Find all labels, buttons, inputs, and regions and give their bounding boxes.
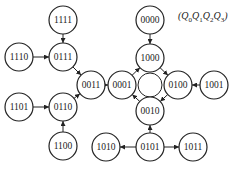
nodes: 1111111001110011110101101100000010000001… — [5, 6, 228, 161]
state-node-1000: 1000 — [136, 44, 164, 72]
edge-1000-0100 — [160, 68, 168, 76]
state-node-0111: 0111 — [49, 43, 77, 71]
svg-text:1101: 1101 — [10, 102, 29, 112]
state-node-0001: 0001 — [108, 71, 136, 99]
edge-0111-0011 — [73, 67, 81, 75]
state-node-1001: 1001 — [200, 71, 228, 99]
edge-0001-1000 — [132, 68, 140, 76]
state-node-1010: 1010 — [92, 133, 120, 161]
svg-text:1010: 1010 — [97, 142, 116, 152]
svg-text:0001: 0001 — [113, 80, 132, 90]
state-node-1011: 1011 — [179, 133, 207, 161]
state-node-0011: 0011 — [77, 71, 105, 99]
state-diagram: 1111111001110011110101101100000010000001… — [0, 0, 232, 170]
state-node-0000: 0000 — [136, 6, 164, 34]
svg-text:0101: 0101 — [141, 142, 160, 152]
svg-text:0110: 0110 — [54, 102, 73, 112]
state-node-0110: 0110 — [49, 93, 77, 121]
edge-0010-0001 — [132, 95, 139, 102]
svg-text:0011: 0011 — [82, 80, 101, 90]
svg-text:1111: 1111 — [54, 15, 72, 25]
svg-text:0111: 0111 — [54, 52, 73, 62]
state-node-1110: 1110 — [5, 43, 33, 71]
svg-text:1000: 1000 — [141, 53, 160, 63]
state-node-1111: 1111 — [49, 6, 77, 34]
svg-text:1001: 1001 — [205, 80, 224, 90]
state-node-0100: 0100 — [164, 71, 192, 99]
svg-text:0100: 0100 — [169, 80, 188, 90]
svg-text:0000: 0000 — [141, 15, 160, 25]
svg-text:1100: 1100 — [54, 141, 73, 151]
edge-0110-0011 — [74, 94, 80, 99]
state-node-1101: 1101 — [5, 93, 33, 121]
state-node-1100: 1100 — [49, 132, 77, 160]
state-node-0101: 0101 — [136, 133, 164, 161]
cycle-indicator — [138, 73, 162, 97]
svg-text:0010: 0010 — [141, 106, 160, 116]
svg-text:1011: 1011 — [184, 142, 203, 152]
edge-0100-0010 — [160, 95, 167, 102]
legend: (Q0Q1Q2Q3) — [178, 10, 228, 24]
svg-text:1110: 1110 — [10, 52, 29, 62]
state-node-0010: 0010 — [136, 97, 164, 125]
